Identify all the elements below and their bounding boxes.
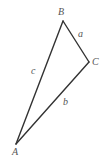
side-c-label: c <box>31 65 36 76</box>
side-c-line <box>16 21 63 144</box>
triangle-diagram: A B C a b c <box>0 0 104 158</box>
side-b-line <box>16 62 89 144</box>
side-b-label: b <box>63 96 68 107</box>
side-a-line <box>63 21 89 62</box>
vertex-c-label: C <box>92 56 99 67</box>
side-a-label: a <box>78 28 83 39</box>
vertex-b-label: B <box>58 6 64 17</box>
vertex-a-label: A <box>11 146 19 157</box>
